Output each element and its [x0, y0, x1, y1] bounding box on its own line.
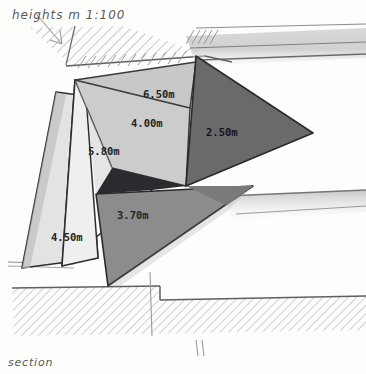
ground-right-band-fill	[224, 190, 366, 220]
page-title: heights m 1:100	[12, 8, 125, 22]
dimension-label-6-50: 6.50m	[143, 88, 175, 100]
facet-2-50[interactable]	[186, 56, 313, 186]
dimension-label-3-70: 3.70m	[117, 209, 149, 221]
ground-right-band	[224, 190, 366, 220]
dimension-label-5-80: 5.80m	[88, 145, 120, 157]
ground-lower-step	[12, 286, 366, 336]
sketch-canvas	[0, 0, 366, 374]
dimension-label-4-50: 4.50m	[51, 231, 83, 243]
ground-upper-left	[30, 26, 205, 66]
dimension-label-4-00: 4.00m	[131, 117, 163, 129]
hatch-fill-upper-left	[30, 26, 200, 66]
architectural-section-sketch: heights m 1:100 6.50m 4.00m 2.50m 5.80m …	[0, 0, 366, 374]
ground-line-top-right-a	[196, 24, 366, 28]
tick-mark-bottom-b	[202, 340, 204, 356]
ground-upper-right	[186, 24, 366, 66]
dimension-label-2-50: 2.50m	[206, 126, 238, 138]
page-caption: section	[8, 356, 53, 369]
hatch-fill-lower	[12, 286, 366, 336]
tick-mark-bottom-a	[196, 340, 198, 356]
